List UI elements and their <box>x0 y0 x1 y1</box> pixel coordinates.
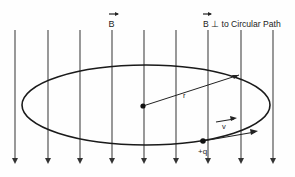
b-label-arrow-icon <box>109 12 119 16</box>
arrow-down-icon <box>109 158 115 164</box>
velocity-arrowhead-icon <box>230 116 237 121</box>
center-point <box>140 103 145 108</box>
arrow-down-icon <box>270 158 276 164</box>
radius-line <box>143 75 239 106</box>
field-lines <box>15 30 273 160</box>
arrow-down-icon <box>238 158 244 164</box>
arrow-down-icon <box>45 158 51 164</box>
arrow-down-icon <box>173 158 179 164</box>
arrow-down-icon <box>205 158 211 164</box>
velocity-label: v <box>222 122 226 131</box>
arrow-down-icon <box>141 158 147 164</box>
tangent-arrowhead-icon <box>250 129 258 135</box>
field-arrowheads <box>12 158 276 164</box>
b-perp-label-arrow-icon <box>203 12 212 16</box>
diagram-canvas: B B ⊥ to Circular Path r v +q <box>0 0 295 177</box>
charge-label: +q <box>198 147 207 156</box>
velocity-tangent-line <box>203 132 255 141</box>
magnetic-field-diagram: B B ⊥ to Circular Path r v +q <box>0 0 295 177</box>
arrow-down-icon <box>12 158 18 164</box>
arrow-down-icon <box>77 158 83 164</box>
charge-particle <box>200 138 206 144</box>
b-field-label: B <box>109 19 115 29</box>
b-perpendicular-label: B ⊥ to Circular Path <box>203 19 281 29</box>
